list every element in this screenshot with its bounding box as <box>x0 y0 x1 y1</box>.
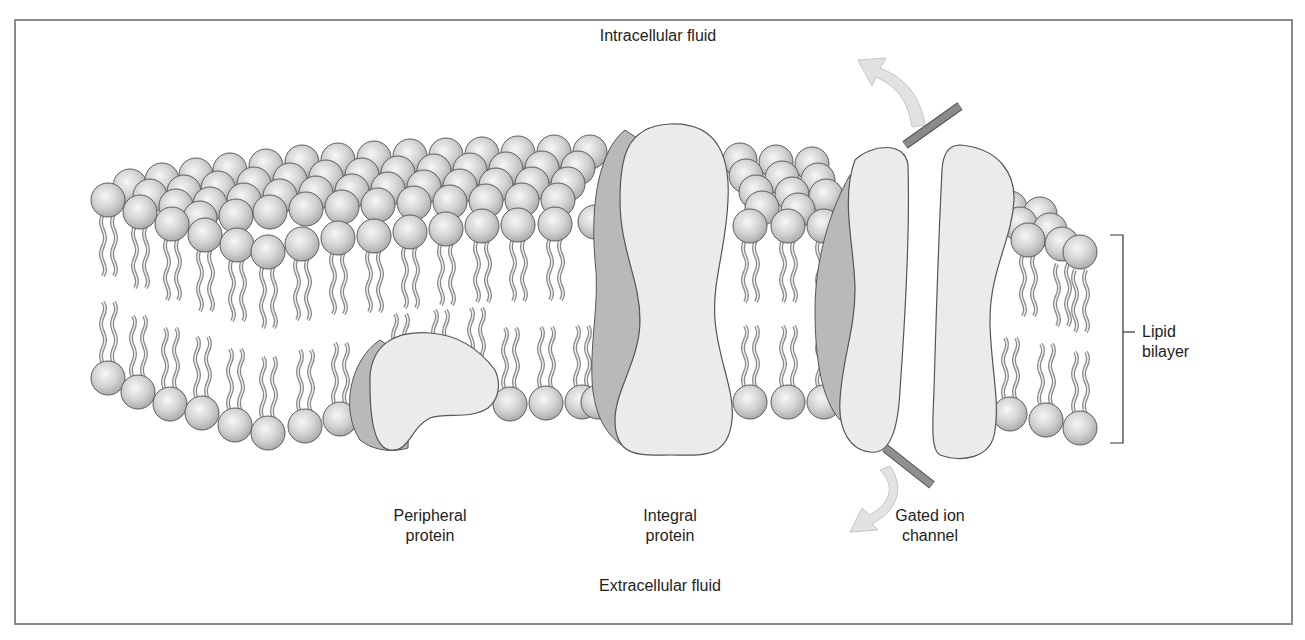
integral-protein <box>592 124 733 455</box>
peripheral-protein <box>350 333 499 451</box>
lipid-bilayer-bracket <box>1110 235 1135 443</box>
ion-flow-arrow-up-icon <box>858 58 925 127</box>
label-intracellular-fluid: Intracellular fluid <box>568 26 748 46</box>
label-extracellular-fluid: Extracellular fluid <box>560 576 760 596</box>
label-lipid-bilayer: Lipid bilayer <box>1142 322 1222 362</box>
label-gated-ion-channel: Gated ion channel <box>870 506 990 546</box>
gated-ion-channel <box>815 106 1014 485</box>
label-peripheral-protein: Peripheral protein <box>370 506 490 546</box>
label-integral-protein: Integral protein <box>610 506 730 546</box>
